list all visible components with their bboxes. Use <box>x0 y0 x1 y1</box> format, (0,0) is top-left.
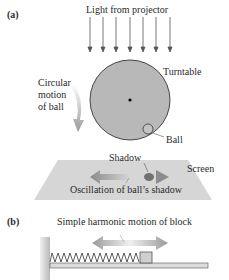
spring-icon <box>50 253 139 262</box>
shm-double-arrow-icon <box>92 236 168 250</box>
light-arrow-icon <box>114 17 118 52</box>
light-arrow-icon <box>101 17 105 52</box>
circular-motion-arrow-icon <box>71 84 84 132</box>
shadow-label: Shadow <box>109 152 141 163</box>
shm-label: Simple harmonic motion of block <box>57 216 192 227</box>
turntable-label: Turntable <box>163 66 202 77</box>
ball-shadow <box>144 173 154 181</box>
light-from-projector-label: Light from projector <box>86 4 168 15</box>
panel-b-label: (b) <box>7 216 19 227</box>
panel-a-label: (a) <box>7 9 19 20</box>
light-arrows <box>88 17 172 52</box>
circular-motion-label-line3: of ball <box>38 101 64 112</box>
light-arrow-icon <box>141 17 145 52</box>
light-arrow-icon <box>88 17 92 52</box>
wall <box>40 237 50 280</box>
light-arrow-icon <box>154 17 158 52</box>
ball-label: Ball <box>166 134 183 145</box>
light-arrow-icon <box>168 17 172 52</box>
oscillation-label: Oscillation of ball’s shadow <box>70 184 182 195</box>
circular-motion-label-line2: motion <box>38 89 66 100</box>
diagram-canvas <box>0 0 229 280</box>
block <box>140 252 152 263</box>
ball <box>143 124 153 134</box>
turntable-center-dot <box>128 98 131 101</box>
screen-label: Screen <box>187 163 214 174</box>
light-arrow-icon <box>128 17 132 52</box>
rail <box>50 263 208 268</box>
circular-motion-label-line1: Circular <box>38 77 71 88</box>
ball-leader-line <box>153 133 164 137</box>
